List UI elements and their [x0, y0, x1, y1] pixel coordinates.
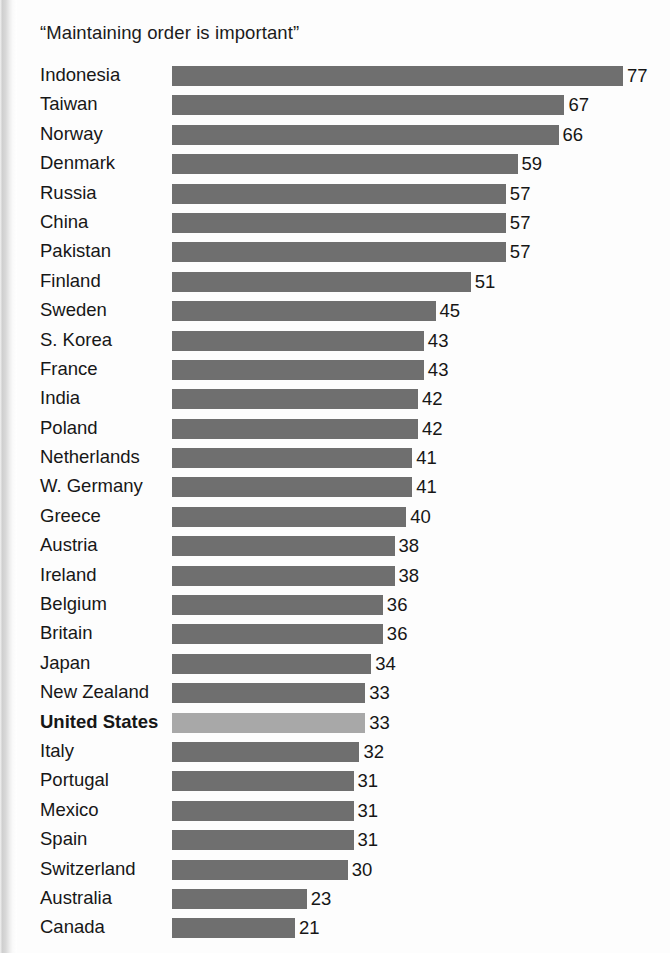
bar [172, 419, 418, 439]
bar-value-label: 57 [506, 182, 531, 206]
bar [172, 389, 418, 409]
bar-row: Ireland38 [0, 563, 670, 592]
bar-track: 38 [172, 536, 670, 556]
chart-title: “Maintaining order is important” [40, 22, 299, 44]
bar-value-label: 31 [354, 799, 379, 823]
bar-value-label: 33 [365, 711, 390, 735]
bar [172, 95, 564, 115]
bar-value-label: 34 [371, 652, 396, 676]
bar-value-label: 21 [295, 916, 320, 940]
bar-category-label: Ireland [40, 563, 97, 586]
bar-row: Britain36 [0, 621, 670, 650]
bar-row: Switzerland30 [0, 857, 670, 886]
bar-value-label: 32 [359, 740, 384, 764]
bar [172, 918, 295, 938]
bar-value-label: 42 [418, 387, 443, 411]
bar-row: Taiwan67 [0, 92, 670, 121]
bar-row: Finland51 [0, 269, 670, 298]
bar-category-label: Mexico [40, 798, 99, 821]
bar-row: China57 [0, 210, 670, 239]
bar-category-label: New Zealand [40, 680, 149, 703]
bar-track: 21 [172, 918, 670, 938]
bar-row: New Zealand33 [0, 680, 670, 709]
bar-track: 33 [172, 683, 670, 703]
bar-row: Australia23 [0, 886, 670, 915]
bar [172, 860, 348, 880]
bar-track: 41 [172, 448, 670, 468]
bar-track: 41 [172, 477, 670, 497]
bar [172, 477, 412, 497]
bar-value-label: 38 [395, 534, 420, 558]
bar [172, 360, 424, 380]
bar-track: 66 [172, 125, 670, 145]
bar-value-label: 41 [412, 446, 437, 470]
bar-track: 40 [172, 507, 670, 527]
bar-category-label: Japan [40, 651, 90, 674]
bar-row: Mexico31 [0, 798, 670, 827]
bar-category-label: Canada [40, 915, 105, 938]
bar-row: Greece40 [0, 504, 670, 533]
bar [172, 184, 506, 204]
bar-row: W. Germany41 [0, 474, 670, 503]
bar [172, 566, 395, 586]
bar [172, 507, 406, 527]
bar-value-label: 36 [383, 622, 408, 646]
bar-value-label: 38 [395, 564, 420, 588]
bar-track: 77 [172, 66, 670, 86]
bar-category-label: Britain [40, 621, 92, 644]
bar [172, 830, 354, 850]
bar-category-label: Sweden [40, 298, 107, 321]
bar-category-label: Finland [40, 269, 101, 292]
bar-track: 36 [172, 624, 670, 644]
bar [172, 331, 424, 351]
bar-value-label: 59 [518, 152, 543, 176]
bar-row: Japan34 [0, 651, 670, 680]
bar-row: India42 [0, 386, 670, 415]
bar-value-label: 31 [354, 828, 379, 852]
bar [172, 713, 365, 733]
bar-track: 42 [172, 419, 670, 439]
bar-row: Austria38 [0, 533, 670, 562]
bar-category-label: Russia [40, 181, 97, 204]
bar-value-label: 43 [424, 329, 449, 353]
bar-row: Indonesia77 [0, 63, 670, 92]
bar-category-label: Greece [40, 504, 101, 527]
bar-category-label: Netherlands [40, 445, 140, 468]
bar-track: 43 [172, 360, 670, 380]
bar-value-label: 51 [471, 270, 496, 294]
bar-value-label: 66 [559, 123, 584, 147]
bar-chart-plot: Indonesia77Taiwan67Norway66Denmark59Russ… [0, 63, 670, 945]
bar-row: S. Korea43 [0, 328, 670, 357]
bar-track: 31 [172, 771, 670, 791]
bar-category-label: Norway [40, 122, 103, 145]
bar [172, 301, 436, 321]
bar-row: Belgium36 [0, 592, 670, 621]
bar-track: 45 [172, 301, 670, 321]
bar-category-label: Austria [40, 533, 98, 556]
bar-track: 36 [172, 595, 670, 615]
bar-track: 23 [172, 889, 670, 909]
bar-category-label: S. Korea [40, 328, 112, 351]
bar-value-label: 43 [424, 358, 449, 382]
bar-value-label: 77 [623, 64, 648, 88]
bar-value-label: 67 [564, 93, 589, 117]
bar-value-label: 31 [354, 769, 379, 793]
bar-row: Poland42 [0, 416, 670, 445]
bar [172, 771, 354, 791]
bar-value-label: 45 [436, 299, 461, 323]
bar-track: 31 [172, 830, 670, 850]
bar-category-label: Taiwan [40, 92, 98, 115]
bar-track: 30 [172, 860, 670, 880]
bar [172, 125, 559, 145]
chart-page: “Maintaining order is important” Indones… [0, 0, 670, 953]
bar [172, 154, 518, 174]
bar-category-label: W. Germany [40, 474, 143, 497]
bar-track: 57 [172, 184, 670, 204]
bar-row: France43 [0, 357, 670, 386]
bar-track: 34 [172, 654, 670, 674]
bar-value-label: 42 [418, 417, 443, 441]
bar [172, 683, 365, 703]
bar-value-label: 30 [348, 858, 373, 882]
bar-category-label: Australia [40, 886, 112, 909]
bar-value-label: 36 [383, 593, 408, 617]
